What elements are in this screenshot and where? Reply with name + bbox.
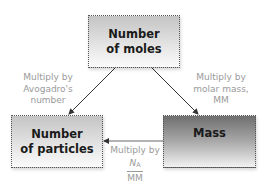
edge-label-line: MM bbox=[183, 95, 259, 107]
fraction-numerator: NA bbox=[127, 158, 143, 172]
edge-label-line: Avogadro's bbox=[13, 84, 83, 96]
edge-label-molar-mass: Multiply by molar mass, MM bbox=[183, 72, 259, 107]
edge-label-na-over-mm: Multiply by NA MM bbox=[106, 145, 164, 184]
node-number-of-particles: Number of particles bbox=[11, 115, 103, 168]
edge-label-avogadro: Multiply by Avogadro's number bbox=[13, 72, 83, 107]
node-particles-line1: Number bbox=[20, 127, 93, 142]
node-number-of-moles: Number of moles bbox=[88, 15, 180, 68]
edge-label-line: Multiply by bbox=[13, 72, 83, 84]
edge-label-line: Multiply by bbox=[106, 145, 164, 157]
node-mass-label: Mass bbox=[193, 126, 226, 141]
fraction-denominator: MM bbox=[127, 172, 143, 184]
edge-label-line: molar mass, bbox=[183, 84, 259, 96]
node-moles-line1: Number bbox=[106, 27, 161, 42]
node-moles-line2: of moles bbox=[106, 42, 161, 57]
node-particles-line2: of particles bbox=[20, 142, 93, 157]
numerator-subscript: A bbox=[136, 161, 140, 169]
fraction-na-over-mm: NA MM bbox=[127, 158, 143, 184]
node-mass: Mass bbox=[163, 115, 256, 168]
edge-label-line: Multiply by bbox=[183, 72, 259, 84]
edge-label-line: number bbox=[13, 95, 83, 107]
